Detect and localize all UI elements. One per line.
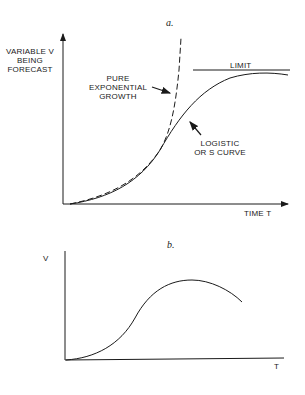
exp-label: PURE EXPONENTIAL GROWTH (83, 74, 153, 101)
logistic-label: LOGISTIC OR S CURVE (190, 139, 250, 157)
exp-pointer-arrow (152, 87, 170, 93)
panel-b-label: b. (167, 239, 175, 250)
exponential-curve (70, 38, 181, 204)
logistic-pointer-arrow (190, 122, 201, 135)
panel-b-x-axis (65, 358, 284, 360)
rise-decline-curve (66, 280, 242, 360)
x-axis-label: TIME T (244, 209, 271, 218)
panel-a-label: a. (166, 17, 174, 28)
panel-b-x-label: T (274, 362, 279, 371)
panel-b-y-label: V (43, 254, 49, 263)
y-axis-label: VARIABLE V BEING FORECAST (0, 47, 60, 74)
limit-label: LIMIT (230, 61, 251, 70)
